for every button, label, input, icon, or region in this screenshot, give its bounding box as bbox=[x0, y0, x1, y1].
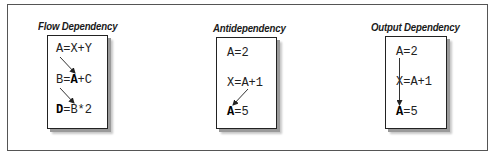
dependency-arrows bbox=[217, 38, 278, 130]
arrow-icon bbox=[60, 88, 74, 103]
panel-title-output-dependency: Output Dependency bbox=[371, 21, 460, 33]
arrow-icon bbox=[60, 57, 75, 73]
panel-title-antidependency: Antidependency bbox=[213, 22, 286, 34]
panel-title-flow-dependency: Flow Dependency bbox=[38, 20, 117, 32]
card-antidependency: A=2 X=A+1 A=5 bbox=[216, 37, 277, 129]
arrow-icon bbox=[233, 89, 248, 105]
dependency-arrows bbox=[48, 36, 109, 130]
card-flow-dependency: A=X+Y B=A+C D=B*2 bbox=[47, 35, 108, 129]
card-output-dependency: A=2 X=A+1 A=5 bbox=[385, 36, 447, 129]
dependency-arrows bbox=[386, 37, 448, 130]
